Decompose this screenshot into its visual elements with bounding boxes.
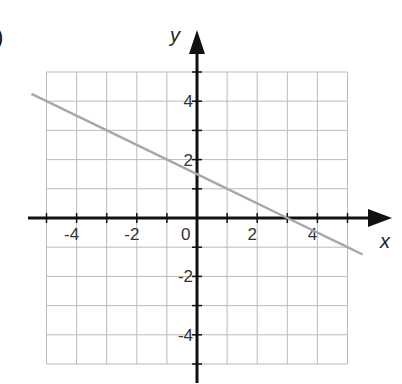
x-tick-label: -4 <box>64 225 79 244</box>
x-axis-arrow-icon <box>368 209 392 227</box>
coordinate-plane: ) -4-2024-4-224 x y <box>0 0 402 384</box>
y-tick-label: -4 <box>178 326 193 345</box>
x-axis-label: x <box>379 230 391 252</box>
x-tick-label: -2 <box>124 225 139 244</box>
y-axis-arrow-icon <box>189 30 205 54</box>
panel-label: ) <box>0 24 3 49</box>
x-tick-label: 2 <box>247 225 256 244</box>
x-tick-label: 0 <box>181 225 190 244</box>
y-tick-label: 2 <box>184 151 193 170</box>
y-axis-label: y <box>168 24 181 46</box>
y-tick-label: 4 <box>184 92 193 111</box>
axes <box>28 30 392 383</box>
y-tick-label: -2 <box>178 267 193 286</box>
